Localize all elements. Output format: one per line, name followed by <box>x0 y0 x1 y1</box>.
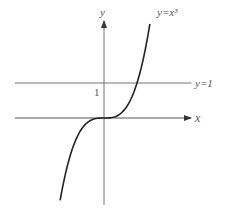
hline-label: y=1 <box>194 77 213 89</box>
x-axis-label: x <box>194 111 201 125</box>
cubic-graph: x y 1 y=x³ y=1 <box>0 0 227 219</box>
y-axis-label: y <box>99 6 105 18</box>
curve-label: y=x³ <box>156 6 178 18</box>
y-tick-label-1: 1 <box>94 86 100 98</box>
curve-y-equals-x-cubed <box>60 24 150 200</box>
